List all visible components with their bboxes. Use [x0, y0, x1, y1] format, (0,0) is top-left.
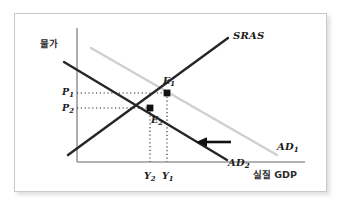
figure-panel: 물가 실질 GDP SRAS AD1 AD2 E1 E2 P1 P2 Y2 Y1 [14, 13, 327, 192]
x-axis-label: 실질 GDP [253, 170, 297, 180]
point-label-e1-subscript: 1 [170, 80, 175, 88]
curve-label-ad2-text: AD [228, 157, 245, 168]
plot-area: 물가 실질 GDP SRAS AD1 AD2 E1 E2 P1 P2 Y2 Y1 [15, 14, 328, 193]
curve-label-ad2-subscript: 2 [245, 161, 250, 170]
price-label-p2: P2 [62, 103, 74, 115]
curve-ad1 [91, 48, 277, 155]
figure-root: 물가 실질 GDP SRAS AD1 AD2 E1 E2 P1 P2 Y2 Y1 [0, 0, 350, 211]
price-label-p1-subscript: 1 [69, 91, 74, 99]
curve-label-ad1: AD1 [277, 142, 299, 153]
y-axis-label: 물가 [40, 39, 58, 49]
output-label-y2-text: Y [144, 170, 151, 181]
curve-label-ad1-text: AD [277, 141, 294, 152]
output-label-y1-subscript: 1 [169, 175, 174, 183]
output-label-y1-text: Y [162, 170, 169, 181]
point-label-e2-subscript: 2 [158, 119, 163, 127]
curve-label-ad1-subscript: 1 [294, 145, 299, 154]
point-e1-marker [164, 90, 171, 97]
output-label-y2-subscript: 2 [151, 175, 156, 183]
curve-label-ad2: AD2 [228, 158, 250, 169]
point-e2-marker [147, 105, 154, 112]
price-label-p1: P1 [62, 87, 74, 99]
point-label-e1: E1 [163, 76, 175, 88]
output-label-y1: Y1 [162, 171, 174, 183]
output-label-y2: Y2 [144, 171, 156, 183]
price-label-p2-subscript: 2 [69, 107, 74, 115]
curve-sras [68, 38, 228, 155]
point-label-e2: E2 [151, 115, 163, 127]
curve-label-sras: SRAS [233, 31, 264, 41]
